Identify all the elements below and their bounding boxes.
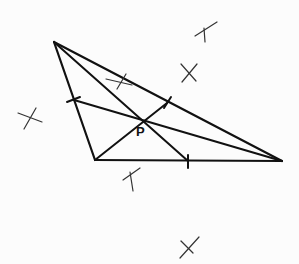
point-p-label: P bbox=[136, 124, 145, 139]
construction-marks bbox=[18, 22, 217, 258]
cross-mark bbox=[18, 108, 42, 129]
triangle-diagram bbox=[0, 0, 299, 264]
cross-mark bbox=[181, 64, 197, 82]
diagram-canvas: P bbox=[0, 0, 299, 264]
cross-mark bbox=[180, 237, 199, 258]
cross-mark bbox=[195, 22, 217, 42]
cross-mark bbox=[123, 168, 140, 191]
